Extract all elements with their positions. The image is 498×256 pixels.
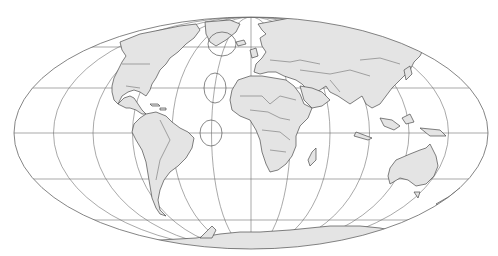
greenland xyxy=(205,20,240,46)
map-canvas xyxy=(0,0,498,256)
australia xyxy=(388,144,438,186)
central-america xyxy=(118,96,146,114)
tissot-indicatrix xyxy=(200,32,236,146)
africa xyxy=(230,76,312,172)
landmasses xyxy=(40,18,460,250)
south-america xyxy=(132,112,194,216)
madagascar xyxy=(308,148,316,166)
graticule xyxy=(0,17,498,249)
antarctica xyxy=(40,226,460,250)
